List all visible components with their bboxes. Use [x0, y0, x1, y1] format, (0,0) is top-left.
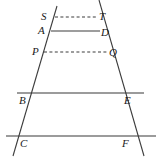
vertex-label-A: A: [38, 25, 45, 36]
transversal-lines-group: [13, 0, 144, 156]
vertex-label-P: P: [32, 46, 39, 57]
geometry-figure: STADPQBECF: [0, 0, 156, 161]
vertex-label-B: B: [19, 95, 26, 106]
vertex-label-F: F: [122, 138, 129, 149]
vertex-label-D: D: [101, 27, 109, 38]
vertex-label-E: E: [124, 95, 131, 106]
left-transversal: [13, 6, 57, 156]
right-transversal: [99, 0, 144, 156]
vertex-label-T: T: [99, 11, 105, 22]
vertex-label-C: C: [20, 138, 27, 149]
vertex-label-S: S: [41, 11, 47, 22]
vertex-label-Q: Q: [109, 47, 117, 58]
